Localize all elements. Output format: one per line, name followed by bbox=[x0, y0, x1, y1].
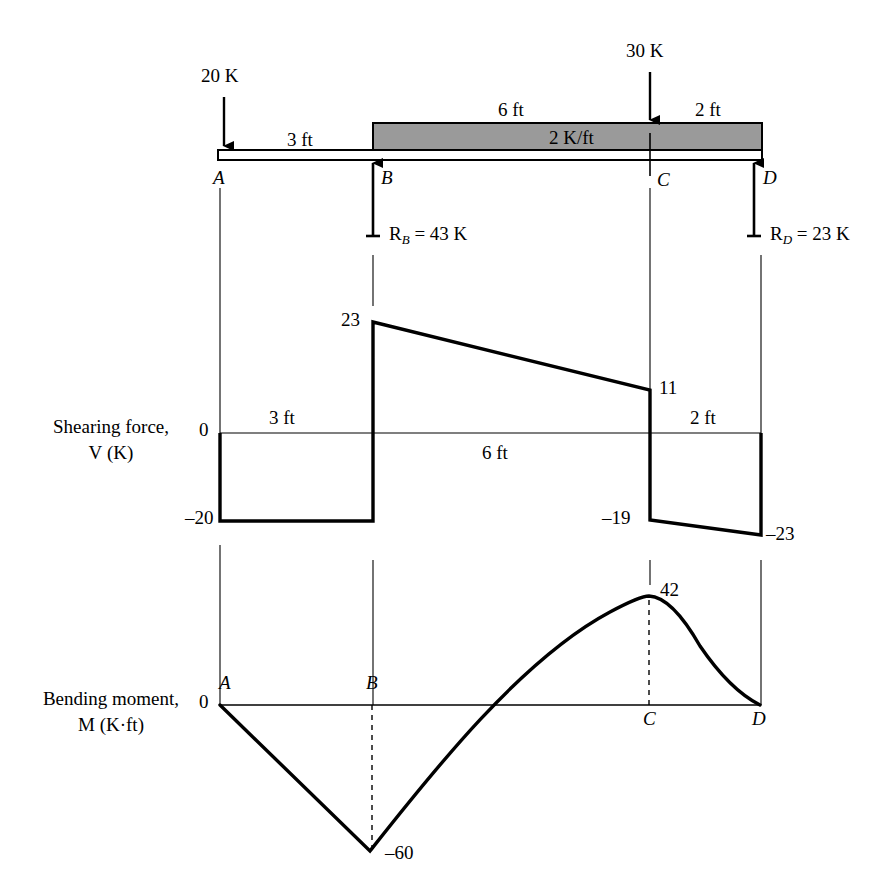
shear-caption-symbol: V bbox=[89, 442, 103, 463]
moment-caption-line2: M (K·ft) bbox=[16, 712, 206, 738]
span-cd-label-beam: 2 ft bbox=[695, 100, 721, 120]
station-reference-lines bbox=[220, 188, 761, 433]
moment-caption-symbol: M bbox=[78, 714, 95, 735]
moment-value-minus60-label: –60 bbox=[385, 843, 414, 863]
beam-station-b-label: B bbox=[381, 168, 393, 188]
shear-span-ab-label: 3 ft bbox=[269, 408, 295, 428]
shear-value-minus20-label: –20 bbox=[185, 508, 214, 528]
reaction-rd-subscript: D bbox=[783, 232, 792, 247]
beam-station-c-label: C bbox=[657, 170, 670, 190]
beam-station-a-label: A bbox=[213, 168, 225, 188]
shear-zero-label: 0 bbox=[199, 420, 209, 440]
reaction-rd-value: = 23 K bbox=[797, 223, 850, 244]
shear-caption-units: (K) bbox=[107, 442, 133, 463]
moment-station-b-label: B bbox=[366, 673, 378, 693]
moment-caption-units: (K·ft) bbox=[100, 714, 144, 735]
reaction-rb-symbol: R bbox=[389, 223, 402, 244]
moment-zero-label: 0 bbox=[199, 692, 209, 712]
span-ab-label-beam: 3 ft bbox=[287, 130, 313, 150]
shear-diagram-caption: Shearing force, V (K) bbox=[16, 414, 206, 465]
span-bc-label-beam: 6 ft bbox=[498, 100, 524, 120]
shear-value-11-label: 11 bbox=[659, 378, 677, 398]
moment-station-a-label: A bbox=[219, 673, 231, 693]
moment-dashed-guides bbox=[372, 598, 649, 848]
shear-force-curve bbox=[220, 322, 761, 535]
moment-caption-line1: Bending moment, bbox=[16, 686, 206, 712]
moment-station-c-label: C bbox=[643, 709, 656, 729]
reaction-rb-value: = 43 K bbox=[414, 223, 467, 244]
reaction-rd-arrow bbox=[747, 163, 761, 237]
reaction-rb-label: RB = 43 K bbox=[389, 224, 467, 247]
station-reference-lines-lower bbox=[220, 545, 761, 705]
point-load-20k-label: 20 K bbox=[201, 66, 238, 86]
moment-station-d-label: D bbox=[752, 709, 766, 729]
reaction-rb-arrow bbox=[366, 163, 380, 237]
shear-span-bc-label: 6 ft bbox=[482, 443, 508, 463]
shear-caption-line1: Shearing force, bbox=[16, 414, 206, 440]
beam-bar bbox=[218, 150, 762, 160]
point-load-30k-label: 30 K bbox=[626, 41, 663, 61]
moment-diagram-caption: Bending moment, M (K·ft) bbox=[16, 686, 206, 737]
reaction-rd-label: RD = 23 K bbox=[770, 224, 850, 247]
reaction-rd-symbol: R bbox=[770, 223, 783, 244]
reaction-rb-subscript: B bbox=[402, 232, 410, 247]
beam-station-d-label: D bbox=[763, 168, 777, 188]
shear-value-23-label: 23 bbox=[341, 310, 360, 330]
shear-value-minus23-label: –23 bbox=[766, 524, 795, 544]
shear-caption-line2: V (K) bbox=[16, 440, 206, 466]
distributed-load-label: 2 K/ft bbox=[549, 128, 594, 148]
moment-value-42-label: 42 bbox=[660, 580, 679, 600]
bending-moment-curve bbox=[220, 596, 760, 851]
figure-root: 20 K 30 K 3 ft 6 ft 2 ft 2 K/ft A B C D … bbox=[0, 0, 879, 887]
shear-span-cd-label: 2 ft bbox=[690, 408, 716, 428]
shear-value-minus19-label: –19 bbox=[602, 508, 631, 528]
